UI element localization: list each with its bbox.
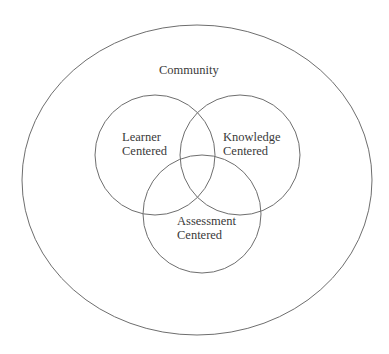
learner-centered-label: Learner Centered xyxy=(122,130,167,158)
learner-label-line1: Learner xyxy=(122,130,167,144)
knowledge-label-line1: Knowledge xyxy=(223,130,281,144)
community-label-text: Community xyxy=(159,63,219,77)
assessment-centered-label: Assessment Centered xyxy=(177,214,236,242)
knowledge-label-line2: Centered xyxy=(223,144,281,158)
knowledge-centered-label: Knowledge Centered xyxy=(223,130,281,158)
assessment-label-line2: Centered xyxy=(177,228,236,242)
assessment-label-line1: Assessment xyxy=(177,214,236,228)
community-label: Community xyxy=(159,63,219,77)
venn-diagram xyxy=(0,0,389,354)
learner-label-line2: Centered xyxy=(122,144,167,158)
